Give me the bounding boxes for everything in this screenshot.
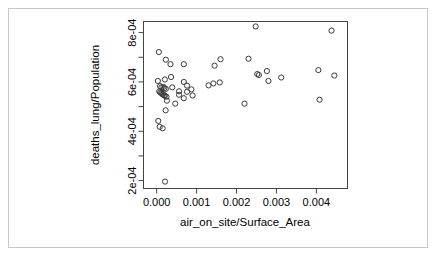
data-point [218, 57, 223, 62]
y-tick-label: 2e-04 [126, 167, 138, 195]
data-point [279, 75, 284, 80]
data-point [217, 80, 222, 85]
x-tick-label: 0.003 [263, 196, 291, 208]
data-point [266, 78, 271, 83]
x-tick-label: 0.001 [183, 196, 211, 208]
data-point [170, 85, 175, 90]
data-point [156, 49, 161, 54]
y-axis-tick-marks [139, 33, 144, 181]
scatter-plot: 0.0000.0010.0020.0030.004 2e-044e-046e-0… [0, 0, 437, 265]
y-tick-label: 4e-04 [126, 117, 138, 145]
data-point [264, 68, 269, 73]
data-point [242, 101, 247, 106]
data-point [212, 63, 217, 68]
data-point [176, 89, 181, 94]
data-point [168, 74, 173, 79]
data-point [253, 24, 258, 29]
data-point [156, 118, 161, 123]
data-point [181, 96, 186, 101]
data-point [181, 62, 186, 67]
data-point-series [155, 24, 337, 184]
data-point [162, 77, 167, 82]
y-tick-label: 8e-04 [126, 19, 138, 47]
data-point [163, 57, 168, 62]
y-tick-label: 6e-04 [126, 68, 138, 96]
y-axis-title: deaths_lung/Population [89, 45, 101, 165]
data-point [163, 108, 168, 113]
data-point [211, 81, 216, 86]
data-point [329, 28, 334, 33]
data-point [190, 93, 195, 98]
x-axis-title: air_on_site/Surface_Area [180, 216, 310, 228]
x-tick-label: 0.002 [223, 196, 251, 208]
x-tick-label: 0.000 [143, 196, 171, 208]
data-point [173, 101, 178, 106]
data-point [256, 72, 261, 77]
x-axis-tick-labels: 0.0000.0010.0020.0030.004 [143, 196, 330, 208]
data-point [162, 179, 167, 184]
x-tick-label: 0.004 [303, 196, 331, 208]
data-point [332, 73, 337, 78]
y-axis-tick-labels: 2e-044e-046e-048e-04 [126, 19, 138, 195]
data-point [155, 78, 160, 83]
data-point [184, 89, 189, 94]
data-point [317, 97, 322, 102]
data-point [246, 56, 251, 61]
plot-area-border [144, 22, 348, 189]
x-axis-tick-marks [157, 189, 317, 194]
data-point [168, 62, 173, 67]
data-point [316, 68, 321, 73]
data-point [184, 83, 189, 88]
plot-box [144, 22, 348, 189]
